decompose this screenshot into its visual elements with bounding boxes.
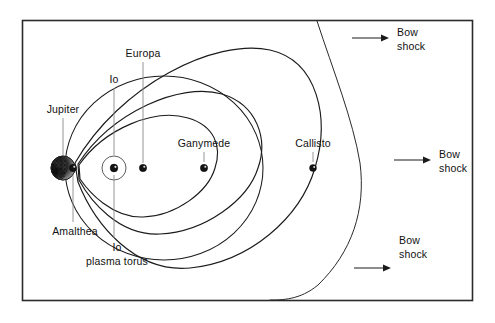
label-jupiter: Jupiter (47, 103, 80, 115)
arrow-right-icon-bottom (354, 265, 391, 272)
arrow-right-icon-middle (394, 157, 431, 164)
label-io-plasma-torus-line2: plasma torus (86, 255, 148, 267)
label-bow-shock-bottom-line1: Bow (399, 234, 420, 246)
label-amalthea: Amalthea (52, 225, 98, 237)
moon-dot-europa (139, 164, 146, 171)
moon-dot-io (110, 164, 118, 172)
moon-dot-ganymede (200, 164, 207, 171)
label-ganymede: Ganymede (178, 137, 231, 149)
arrow-right-icon-top (352, 35, 389, 42)
magnetopause-middle (78, 91, 262, 234)
bow-shock-curve (270, 21, 361, 300)
diagram-canvas: Jupiter Io Europa Ganymede Callisto Amal… (0, 0, 495, 323)
magnetosphere-diagram: Jupiter Io Europa Ganymede Callisto Amal… (0, 0, 495, 323)
label-io-plasma-torus-line1: Io (112, 241, 121, 253)
label-callisto: Callisto (295, 137, 331, 149)
label-bow-shock-bottom-line2: shock (399, 248, 428, 260)
label-bow-shock-top-line1: Bow (397, 26, 418, 38)
label-bow-shock-middle-line2: shock (439, 162, 468, 174)
moon-dot-callisto (310, 165, 317, 172)
label-io: Io (109, 73, 118, 85)
magnetopause-inner (79, 115, 218, 217)
moon-dot-amalthea (69, 164, 76, 171)
label-europa: Europa (126, 47, 161, 59)
label-bow-shock-middle-line1: Bow (439, 148, 460, 160)
label-bow-shock-top-line2: shock (397, 40, 426, 52)
